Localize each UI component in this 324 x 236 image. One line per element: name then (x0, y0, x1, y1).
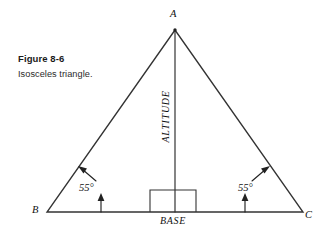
altitude-label: ALTITUDE (160, 86, 171, 148)
right-angle-arrowhead-base (242, 193, 249, 201)
left-angle-arrowhead-base (98, 193, 105, 201)
figure-caption-subtitle: Isosceles triangle. (18, 68, 148, 81)
right-angle-marker (150, 190, 196, 212)
angle-label-right: 55° (238, 182, 253, 193)
figure-caption: Figure 8-6 Isosceles triangle. (18, 52, 148, 81)
figure-container: Figure 8-6 Isosceles triangle. A B C ALT… (0, 0, 324, 236)
apex-point (173, 28, 176, 31)
vertex-label-c: C (305, 209, 312, 220)
vertex-label-a: A (170, 8, 176, 19)
vertex-label-b: B (32, 204, 38, 215)
angle-label-left: 55° (79, 182, 94, 193)
figure-caption-title: Figure 8-6 (18, 52, 148, 65)
base-label: BASE (160, 215, 186, 226)
